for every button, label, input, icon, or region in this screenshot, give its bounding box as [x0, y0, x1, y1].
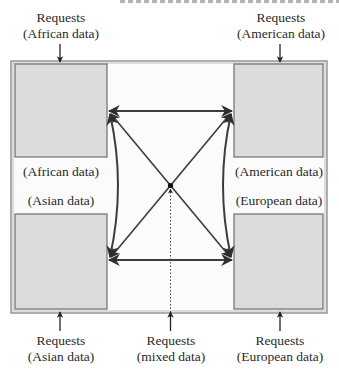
europe-requests-line2: (European data) [237, 349, 324, 365]
center-junction-dot [168, 183, 173, 188]
europe-requests-line1: Requests [237, 333, 324, 349]
mixed-requests-line2: (mixed data) [137, 349, 206, 365]
mixed-requests-line1: Requests [137, 333, 206, 349]
europe-data-label: (European data) [236, 193, 323, 209]
america-requests-label: Requests (American data) [237, 10, 325, 42]
africa-requests-label: Requests (African data) [23, 10, 99, 42]
europe-requests-label: Requests (European data) [237, 333, 324, 365]
europe-database-box [234, 214, 323, 309]
asia-requests-label: Requests (Asian data) [28, 333, 94, 365]
america-requests-line2: (American data) [237, 26, 325, 42]
africa-requests-line2: (African data) [23, 26, 99, 42]
asia-database-box [15, 214, 107, 309]
america-database-box [234, 64, 323, 157]
america-requests-line1: Requests [237, 10, 325, 26]
asia-requests-line1: Requests [28, 333, 94, 349]
mixed-requests-label: Requests (mixed data) [137, 333, 206, 365]
asia-requests-line2: (Asian data) [28, 349, 94, 365]
africa-database-box [15, 64, 107, 157]
africa-requests-line1: Requests [23, 10, 99, 26]
asia-data-label: (Asian data) [28, 193, 94, 209]
africa-data-label: (African data) [23, 164, 99, 180]
replication-diagram [0, 0, 339, 370]
america-data-label: (American data) [235, 164, 323, 180]
